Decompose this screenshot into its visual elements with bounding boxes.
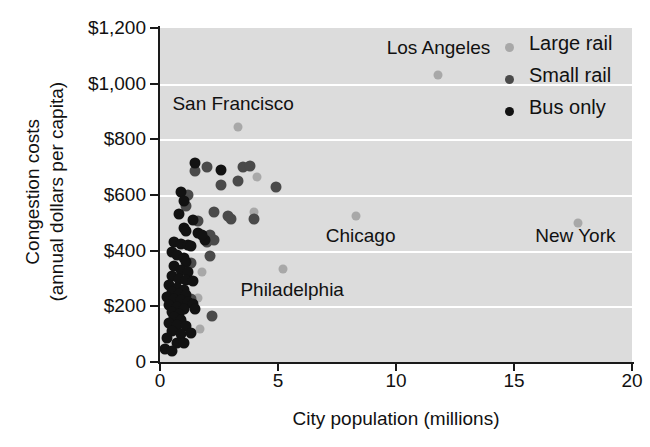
legend-marker-icon (505, 75, 514, 84)
gridline (160, 306, 632, 308)
data-point (216, 180, 227, 191)
data-point (232, 176, 243, 187)
data-point (434, 71, 443, 80)
gridline (160, 195, 632, 197)
data-point (351, 211, 360, 220)
legend-marker-icon (505, 43, 514, 52)
gridline (160, 139, 632, 141)
y-axis-title-line-2: (annual dollars per capita) (45, 27, 69, 357)
city-label-chicago: Chicago (326, 225, 396, 247)
y-tick-label: $200 (104, 295, 146, 317)
y-tick-mark (150, 83, 159, 85)
y-tick-label-wrap: 0 (0, 362, 146, 363)
y-tick-label: 0 (135, 351, 146, 373)
data-point (209, 234, 220, 245)
x-tick-label: 0 (155, 370, 166, 392)
legend-label: Bus only (529, 96, 606, 119)
x-tick-label: 20 (621, 370, 642, 392)
data-point (202, 162, 213, 173)
x-tick-label: 5 (273, 370, 284, 392)
data-point (180, 226, 191, 237)
city-label-new-york: New York (535, 225, 615, 247)
data-point (188, 276, 199, 287)
y-tick-label: $800 (104, 128, 146, 150)
y-axis-title-line-1: Congestion costs (21, 27, 45, 357)
y-axis-title: Congestion costs (annual dollars per cap… (21, 27, 69, 357)
y-tick-mark (150, 361, 159, 363)
legend-label: Large rail (529, 32, 612, 55)
y-tick-mark (150, 250, 159, 252)
data-point (198, 267, 207, 276)
data-point (190, 157, 201, 168)
data-point (244, 160, 255, 171)
data-point (185, 327, 196, 338)
data-point (185, 241, 196, 252)
x-tick-label: 10 (385, 370, 406, 392)
data-point (249, 213, 260, 224)
y-tick-label: $1,000 (88, 73, 146, 95)
city-label-los-angeles: Los Angeles (387, 37, 491, 59)
data-point (196, 324, 205, 333)
data-point (209, 206, 220, 217)
legend-label: Small rail (529, 64, 611, 87)
city-label-philadelphia: Philadelphia (240, 279, 344, 301)
y-tick-label: $400 (104, 240, 146, 262)
data-point (233, 122, 242, 131)
y-tick-mark (150, 305, 159, 307)
city-label-san-francisco: San Francisco (172, 93, 293, 115)
legend-marker-icon (505, 107, 514, 116)
data-point (197, 230, 208, 241)
y-tick-mark (150, 138, 159, 140)
data-point (188, 215, 199, 226)
y-tick-label: $1,200 (88, 17, 146, 39)
y-tick-label: $600 (104, 184, 146, 206)
y-tick-mark (150, 194, 159, 196)
data-point (278, 264, 287, 273)
data-point (225, 213, 236, 224)
data-point (252, 172, 261, 181)
data-point (204, 251, 215, 262)
data-point (216, 164, 227, 175)
gridline (160, 251, 632, 253)
data-point (178, 195, 189, 206)
data-point (190, 304, 201, 315)
data-point (206, 311, 217, 322)
data-point (166, 346, 177, 357)
data-point (173, 209, 184, 220)
x-axis-title: City population (millions) (160, 408, 632, 430)
y-tick-mark (150, 27, 159, 29)
x-tick-label: 15 (503, 370, 524, 392)
data-point (178, 338, 189, 349)
data-point (270, 181, 281, 192)
scatter-chart-figure: 0$200$400$600$800$1,000$1,200 05101520 L… (0, 0, 650, 447)
